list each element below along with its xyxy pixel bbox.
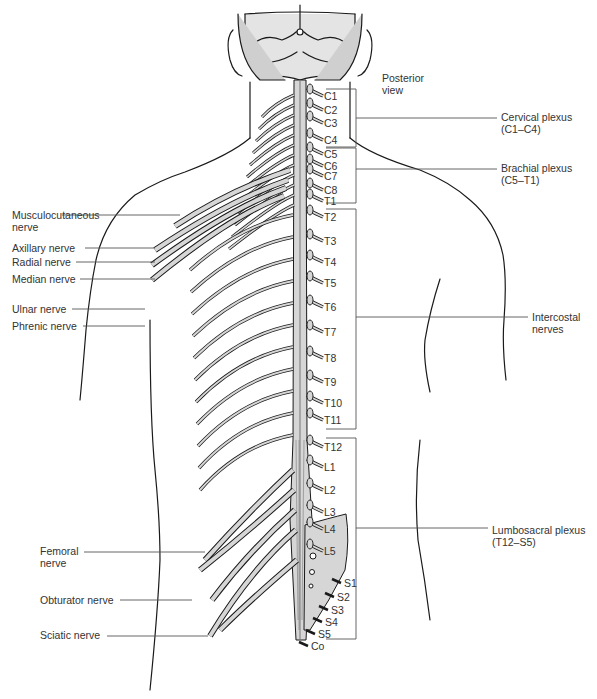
segment-label-s4: S4 (325, 616, 338, 628)
view-label-line1: Posterior (382, 72, 424, 84)
segment-label-t2: T2 (324, 211, 336, 223)
lumbosacral-plexus-label: Lumbosacral plexus(T12–S5) (492, 524, 585, 548)
obturator-label-line: Obturator nerve (40, 594, 114, 606)
segment-label-c4: C4 (324, 134, 337, 146)
segment-label-l3: L3 (324, 506, 336, 518)
segment-label-t11: T11 (324, 414, 341, 426)
view-label: Posterior view (382, 72, 424, 96)
brachial-plexus-label-line: (C5–T1) (501, 174, 572, 186)
cervical-plexus-label-line: Cervical plexus (501, 111, 572, 123)
ulnar-label: Ulnar nerve (12, 303, 66, 315)
radial-label: Radial nerve (12, 256, 71, 268)
segment-label-l1: L1 (324, 461, 336, 473)
segment-label-c5: C5 (324, 148, 337, 160)
segment-label-s5: S5 (318, 628, 331, 640)
phrenic-label: Phrenic nerve (12, 320, 77, 332)
femoral-label: Femoralnerve (40, 545, 79, 569)
musculocutaneous-label-line: Musculocutaneous (12, 209, 100, 221)
cervical-plexus-label: Cervical plexus(C1–C4) (501, 111, 572, 135)
segment-label-l2: L2 (324, 484, 336, 496)
segment-label-c3: C3 (324, 117, 337, 129)
segment-label-l5: L5 (324, 545, 336, 557)
median-label: Median nerve (12, 273, 76, 285)
intercostal-nerves-label-line: Intercostal (532, 311, 580, 323)
segment-label-c2: C2 (324, 104, 337, 116)
segment-label-t9: T9 (324, 376, 336, 388)
segment-label-t8: T8 (324, 352, 336, 364)
femoral-label-line: nerve (40, 557, 79, 569)
segment-label-t5: T5 (324, 277, 336, 289)
segment-label-co: Co (311, 640, 324, 652)
sciatic-label-line: Sciatic nerve (40, 629, 100, 641)
segment-label-t3: T3 (324, 235, 336, 247)
intercostal-nerves-label-line: nerves (532, 323, 580, 335)
sciatic-label: Sciatic nerve (40, 629, 100, 641)
femoral-label-line: Femoral (40, 545, 79, 557)
brachial-plexus-label: Brachial plexus(C5–T1) (501, 162, 572, 186)
obturator-label: Obturator nerve (40, 594, 114, 606)
view-label-line2: view (382, 84, 424, 96)
musculocutaneous-label: Musculocutaneousnerve (12, 209, 100, 233)
median-label-line: Median nerve (12, 273, 76, 285)
segment-label-t4: T4 (324, 256, 336, 268)
segment-label-c1: C1 (324, 90, 337, 102)
lumbosacral-plexus-label-line: (T12–S5) (492, 536, 585, 548)
axillary-label: Axillary nerve (12, 242, 75, 254)
segment-label-s1: S1 (344, 577, 357, 589)
segment-label-t6: T6 (324, 301, 336, 313)
segment-label-c7: C7 (324, 170, 337, 182)
ulnar-label-line: Ulnar nerve (12, 303, 66, 315)
segment-label-s2: S2 (337, 591, 350, 603)
intercostal-nerves-label: Intercostalnerves (532, 311, 580, 335)
segment-label-s3: S3 (331, 604, 344, 616)
segment-label-t1: T1 (324, 195, 336, 207)
lumbosacral-plexus-label-line: Lumbosacral plexus (492, 524, 585, 536)
brachial-plexus-label-line: Brachial plexus (501, 162, 572, 174)
segment-label-t12: T12 (324, 441, 342, 453)
cervical-plexus-label-line: (C1–C4) (501, 123, 572, 135)
phrenic-label-line: Phrenic nerve (12, 320, 77, 332)
radial-label-line: Radial nerve (12, 256, 71, 268)
segment-label-l4: L4 (324, 523, 336, 535)
segment-label-t10: T10 (324, 397, 342, 409)
segment-label-t7: T7 (324, 326, 336, 338)
musculocutaneous-label-line: nerve (12, 221, 100, 233)
axillary-label-line: Axillary nerve (12, 242, 75, 254)
